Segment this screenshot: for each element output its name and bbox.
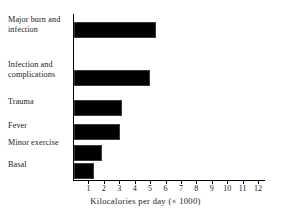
bar: [74, 22, 156, 38]
bar: [74, 100, 122, 116]
tick-label: 8: [188, 184, 204, 194]
tick-label: 4: [127, 184, 143, 194]
plot-area: [73, 14, 265, 180]
category-label: Trauma: [8, 97, 72, 107]
tick-label: 9: [204, 184, 220, 194]
tick-label: 7: [173, 184, 189, 194]
tick-label: 11: [235, 184, 251, 194]
bar-chart: Major burn and infectionInfection and co…: [0, 0, 291, 216]
category-label: Minor exercise: [8, 138, 72, 148]
category-label: Basal: [8, 160, 72, 170]
tick-label: 3: [111, 184, 127, 194]
tick-label: 12: [250, 184, 266, 194]
x-axis-title: Kilocalories per day (× 1000): [0, 196, 291, 206]
category-label: Fever: [8, 121, 72, 131]
tick-label: 2: [96, 184, 112, 194]
x-axis-line: [73, 180, 265, 181]
tick-label: 5: [142, 184, 158, 194]
bar: [74, 124, 120, 140]
category-label: Major burn and infection: [8, 15, 72, 35]
bar: [74, 163, 94, 179]
tick-label: 6: [158, 184, 174, 194]
tick-label: 1: [80, 184, 96, 194]
bar: [74, 70, 150, 86]
bar: [74, 145, 102, 161]
category-label: Infection and complications: [8, 60, 72, 80]
tick-label: 10: [219, 184, 235, 194]
